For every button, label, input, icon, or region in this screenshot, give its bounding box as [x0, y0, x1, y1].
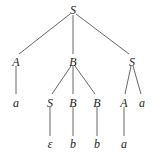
tree-node-label: B [69, 96, 77, 110]
tree-node-label: S [47, 96, 53, 110]
parse-tree-diagram: SABSaSBBAaεbba [0, 0, 154, 160]
tree-edge [52, 66, 71, 94]
tree-edges [16, 14, 141, 136]
tree-nodes: SABSaSBBAaεbba [11, 3, 145, 151]
tree-node-label: ε [48, 137, 53, 151]
tree-node-label: S [129, 55, 135, 69]
tree-node-label: a [121, 137, 127, 151]
tree-edge [133, 66, 141, 94]
tree-node-label: A [11, 55, 20, 69]
tree-node-label: A [119, 96, 128, 110]
tree-node-label: b [70, 137, 76, 151]
tree-node-label: B [93, 96, 101, 110]
tree-node-label: S [70, 3, 76, 17]
tree-edge [125, 66, 131, 94]
tree-edge [19, 14, 70, 54]
tree-edge [76, 14, 129, 54]
tree-node-label: b [94, 137, 100, 151]
tree-node-label: a [139, 96, 145, 110]
tree-node-label: B [69, 55, 77, 69]
tree-edge [75, 66, 95, 94]
tree-node-label: a [13, 96, 19, 110]
